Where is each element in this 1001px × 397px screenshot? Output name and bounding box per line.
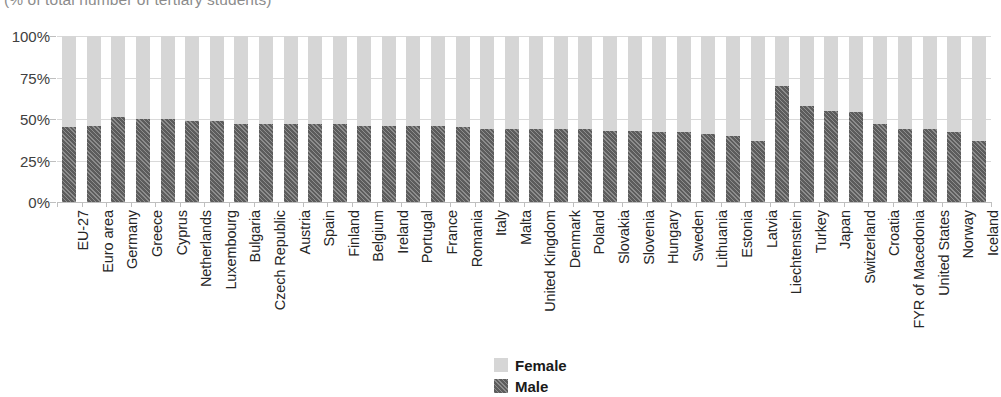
- bar-segment-female: [87, 36, 101, 126]
- x-axis-tick: [598, 202, 599, 207]
- x-axis-label: Czech Republic: [272, 210, 288, 310]
- bar-group: [603, 36, 617, 202]
- x-axis-tick: [671, 202, 672, 207]
- x-axis-label: Ireland: [395, 210, 411, 254]
- bar-segment-male: [972, 141, 986, 202]
- bar-group: [652, 36, 666, 202]
- bar-group: [578, 36, 592, 202]
- bar-segment-female: [873, 36, 887, 124]
- x-axis-tick: [647, 202, 648, 207]
- x-axis-label: Poland: [591, 210, 607, 255]
- x-axis-label: United States: [936, 210, 952, 296]
- bar-segment-female: [284, 36, 298, 124]
- bar-segment-female: [923, 36, 937, 129]
- x-axis-label: FYR of Macedonia: [911, 210, 927, 329]
- x-axis-tick: [696, 202, 697, 207]
- bar-group: [234, 36, 248, 202]
- bar-segment-male: [800, 106, 814, 202]
- legend-item-male[interactable]: Male: [494, 376, 567, 396]
- x-axis-tick: [721, 202, 722, 207]
- x-axis-label: Lithuania: [714, 210, 730, 268]
- bar-segment-male: [333, 124, 347, 202]
- bar-group: [480, 36, 494, 202]
- x-axis-label: Belgium: [370, 210, 386, 262]
- bar-segment-female: [382, 36, 396, 126]
- bar-segment-female: [775, 36, 789, 86]
- bar-group: [800, 36, 814, 202]
- bar-segment-male: [87, 126, 101, 202]
- bar-group: [775, 36, 789, 202]
- bar-segment-male: [898, 129, 912, 202]
- x-axis-tick: [131, 202, 132, 207]
- x-axis-label: Romania: [469, 210, 485, 267]
- x-axis-tick: [966, 202, 967, 207]
- bar-segment-female: [136, 36, 150, 119]
- x-axis-label: Austria: [297, 210, 313, 254]
- bar-segment-male: [185, 121, 199, 202]
- x-axis-tick: [549, 202, 550, 207]
- x-axis-tick: [303, 202, 304, 207]
- bar-segment-male: [284, 124, 298, 202]
- y-axis: 0%25%50%75%100%: [0, 0, 50, 397]
- bar-segment-male: [652, 132, 666, 202]
- bar-group: [210, 36, 224, 202]
- x-axis-tick: [794, 202, 795, 207]
- bar-segment-male: [628, 131, 642, 202]
- x-axis-label: Denmark: [567, 210, 583, 268]
- x-axis-label: Finland: [346, 210, 362, 257]
- bar-segment-male: [480, 129, 494, 202]
- x-axis-tick: [229, 202, 230, 207]
- bar-segment-female: [529, 36, 543, 129]
- bar-segment-male: [677, 132, 691, 202]
- x-axis-tick: [352, 202, 353, 207]
- x-axis-label: Slovenia: [641, 210, 657, 265]
- bar-segment-male: [382, 126, 396, 202]
- bar-segment-male: [701, 134, 715, 202]
- bar-group: [505, 36, 519, 202]
- x-axis-label: Estonia: [739, 210, 755, 258]
- bar-group: [431, 36, 445, 202]
- x-axis-label: Japan: [837, 210, 853, 249]
- bar-segment-male: [947, 132, 961, 202]
- x-axis-tick: [327, 202, 328, 207]
- bar-group: [185, 36, 199, 202]
- x-axis-tick: [155, 202, 156, 207]
- bar-group: [382, 36, 396, 202]
- bar-segment-male: [456, 127, 470, 202]
- bar-segment-female: [357, 36, 371, 126]
- x-axis-tick: [524, 202, 525, 207]
- x-axis-tick: [180, 202, 181, 207]
- bar-segment-male: [873, 124, 887, 202]
- bar-group: [726, 36, 740, 202]
- bar-segment-male: [136, 119, 150, 202]
- y-axis-tick: [50, 202, 56, 203]
- x-axis-tick: [426, 202, 427, 207]
- x-axis-label: France: [444, 210, 460, 255]
- x-axis-tick: [819, 202, 820, 207]
- y-axis-tick: [50, 161, 56, 162]
- bar-group: [136, 36, 150, 202]
- y-axis-label: 100%: [0, 28, 50, 45]
- x-axis-tick: [450, 202, 451, 207]
- legend-label: Female: [515, 358, 567, 373]
- bar-group: [284, 36, 298, 202]
- bar-segment-female: [431, 36, 445, 126]
- legend-item-female[interactable]: Female: [494, 355, 567, 375]
- bar-segment-female: [652, 36, 666, 132]
- bar-series-group: [57, 36, 991, 202]
- y-axis-label: 50%: [0, 111, 50, 128]
- bar-segment-male: [923, 129, 937, 202]
- bar-group: [259, 36, 273, 202]
- bar-group: [972, 36, 986, 202]
- bar-segment-female: [947, 36, 961, 132]
- x-axis-tick: [499, 202, 500, 207]
- bar-segment-female: [849, 36, 863, 112]
- bar-segment-female: [726, 36, 740, 136]
- x-axis-label: Euro area: [100, 210, 116, 273]
- bar-segment-female: [185, 36, 199, 121]
- x-axis-label: Turkey: [813, 210, 829, 253]
- bar-group: [628, 36, 642, 202]
- x-axis-tick: [942, 202, 943, 207]
- bar-group: [898, 36, 912, 202]
